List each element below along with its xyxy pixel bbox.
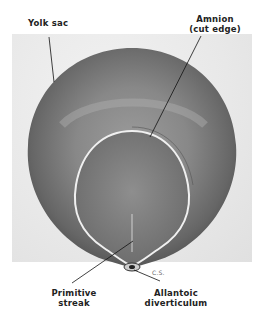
- label-amnion: Amnion (cut edge): [180, 14, 250, 34]
- label-allantoic-diverticulum: Allantoic diverticulum: [136, 288, 216, 308]
- label-yolk-sac: Yolk sac: [28, 18, 88, 28]
- leader-yolk-sac: [49, 37, 54, 82]
- label-allantoic-line1: Allantoic: [136, 288, 216, 298]
- initials-label: C.S.: [152, 268, 165, 278]
- label-amnion-line1: Amnion: [180, 14, 250, 24]
- label-primitive-line1: Primitive: [44, 288, 104, 298]
- embryo-illustration: [0, 0, 264, 316]
- label-primitive-line2: streak: [44, 298, 104, 308]
- label-amnion-line2: (cut edge): [180, 24, 250, 34]
- label-allantoic-line2: diverticulum: [136, 298, 216, 308]
- label-primitive-streak: Primitive streak: [44, 288, 104, 308]
- embryo-figure: C.S. Yolk sac Amnion (cut edge) Primitiv…: [0, 0, 264, 316]
- label-yolk-sac-text: Yolk sac: [28, 18, 68, 28]
